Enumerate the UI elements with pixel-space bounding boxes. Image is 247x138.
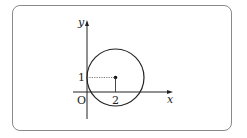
x-axis-label: x — [167, 93, 174, 106]
coordinate-diagram: y x O 2 1 — [0, 0, 247, 138]
origin-label: O — [77, 94, 86, 107]
y-tick-label: 1 — [78, 71, 85, 84]
y-axis-label: y — [77, 16, 85, 29]
x-tick-label: 2 — [112, 94, 119, 107]
y-axis-arrow-icon — [85, 20, 89, 26]
